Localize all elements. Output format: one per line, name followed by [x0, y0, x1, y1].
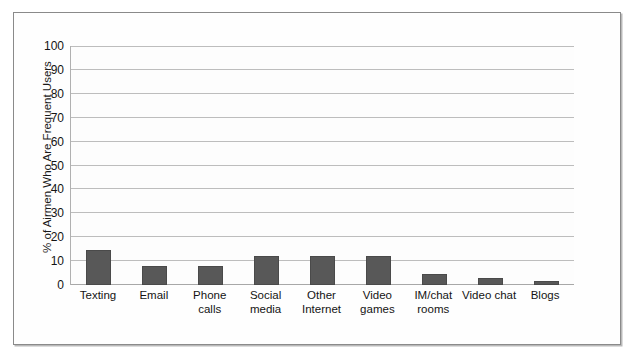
y-tick-label-80: 80: [18, 88, 64, 100]
y-tick-label-60: 60: [18, 136, 64, 148]
gridline-50: [71, 165, 574, 166]
y-tick-label-70: 70: [18, 112, 64, 124]
y-tick-label-90: 90: [18, 64, 64, 76]
gridline-30: [71, 212, 574, 213]
gridline-40: [71, 188, 574, 189]
figure-frame: % of Airmen Who Are Frequent Users 10090…: [13, 12, 621, 345]
bar-texting: [86, 250, 111, 285]
gridline-70: [71, 117, 574, 118]
x-tick-label-line: Blogs: [506, 289, 584, 303]
y-axis-tick-labels: 1009080706050403020100: [14, 46, 64, 285]
gridline-100: [71, 46, 574, 47]
gridline-80: [71, 93, 574, 94]
bar-video-chat: [478, 278, 503, 285]
x-tick-label-blogs: Blogs: [506, 289, 584, 303]
bar-social-media: [254, 256, 279, 285]
bar-im-chat-rooms: [422, 274, 447, 285]
bar-phone-calls: [198, 266, 223, 285]
y-tick-label-40: 40: [18, 183, 64, 195]
bar-blogs: [534, 281, 559, 285]
bar-chart: % of Airmen Who Are Frequent Users 10090…: [14, 13, 622, 346]
gridline-20: [71, 236, 574, 237]
y-tick-label-20: 20: [18, 231, 64, 243]
y-tick-label-0: 0: [18, 279, 64, 291]
bar-other-internet: [310, 256, 335, 285]
gridline-60: [71, 141, 574, 142]
x-tick-label-line: rooms: [394, 303, 472, 317]
gridline-90: [71, 69, 574, 70]
x-axis-tick-labels: TextingEmailPhonecallsSocialmediaOtherIn…: [70, 289, 573, 335]
bar-video-games: [366, 256, 391, 285]
y-tick-label-30: 30: [18, 207, 64, 219]
plot-area: [70, 46, 574, 285]
y-tick-label-50: 50: [18, 160, 64, 172]
y-tick-label-100: 100: [18, 40, 64, 52]
bar-email: [142, 266, 167, 285]
y-tick-label-10: 10: [18, 255, 64, 267]
